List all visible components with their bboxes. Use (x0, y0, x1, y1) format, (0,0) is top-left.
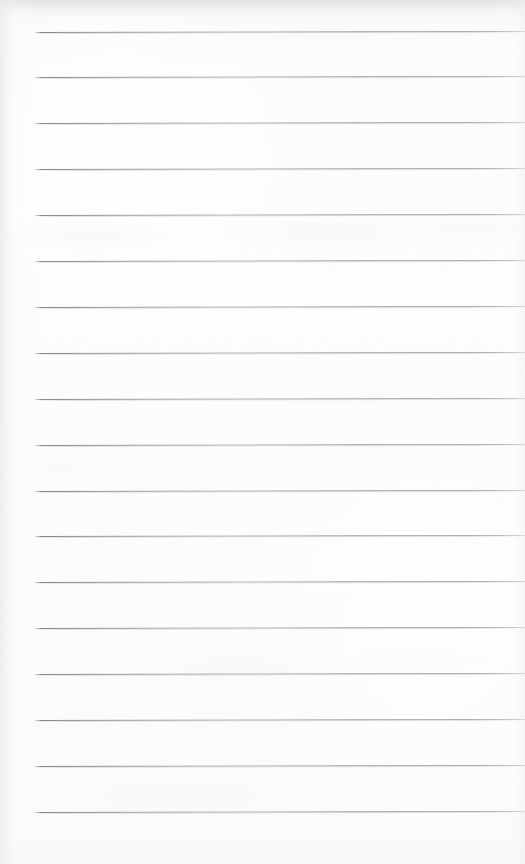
ruled-line (35, 306, 525, 308)
ruled-lines-layer (0, 0, 525, 864)
ruled-line (35, 719, 525, 721)
ruled-line (35, 581, 525, 583)
ruled-line (35, 489, 525, 491)
ruled-line (35, 76, 525, 78)
ruled-line (35, 535, 525, 537)
ruled-line (35, 398, 525, 400)
ruled-line (35, 260, 525, 262)
ruled-line (35, 811, 525, 813)
ruled-line (35, 30, 525, 32)
ruled-line (35, 168, 525, 170)
ruled-line (35, 214, 525, 216)
ruled-line (35, 352, 525, 354)
ruled-line (35, 444, 525, 446)
ruled-line (35, 627, 525, 629)
ruled-line (35, 765, 525, 767)
ruled-line (35, 122, 525, 124)
ruled-line (35, 673, 525, 675)
scanned-page (0, 0, 525, 864)
